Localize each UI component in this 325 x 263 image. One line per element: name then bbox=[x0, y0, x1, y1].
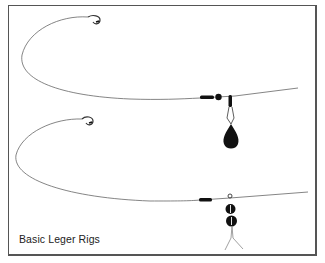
lower-line bbox=[16, 119, 308, 201]
upper-link-loop bbox=[227, 107, 234, 124]
lower-hook-icon bbox=[82, 117, 93, 125]
pear-lead-icon bbox=[223, 124, 238, 149]
upper-hook-icon bbox=[88, 16, 100, 24]
upper-swivel-icon bbox=[200, 96, 214, 100]
upper-rig bbox=[22, 16, 298, 149]
lower-rig bbox=[16, 117, 308, 250]
upper-line bbox=[22, 17, 298, 100]
leger-rigs-diagram bbox=[0, 0, 325, 263]
upper-link-swivel-icon bbox=[229, 95, 233, 107]
lower-swivel-icon bbox=[199, 198, 212, 202]
lower-ring-icon bbox=[228, 194, 232, 198]
upper-hook-barb bbox=[96, 21, 99, 22]
link-tails bbox=[225, 226, 243, 250]
lower-hook-barb bbox=[89, 122, 92, 123]
upper-bead-icon bbox=[215, 94, 221, 100]
figure-caption: Basic Leger Rigs bbox=[19, 233, 100, 245]
